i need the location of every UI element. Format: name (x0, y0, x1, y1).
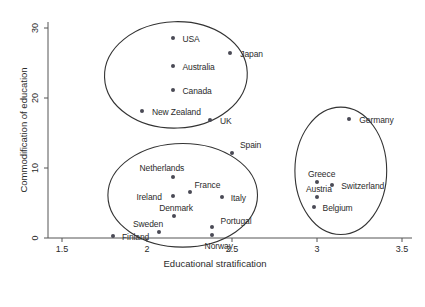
point-label: Finland (122, 232, 149, 242)
x-axis-title: Educational stratification (164, 258, 267, 269)
point-label: Switzerland (341, 181, 384, 191)
data-point[interactable] (315, 195, 319, 199)
y-tick-label: 10 (30, 163, 40, 173)
point-label: Australia (183, 62, 215, 72)
data-point[interactable] (140, 109, 144, 113)
point-label: France (195, 180, 221, 190)
data-point[interactable] (171, 88, 175, 92)
data-point[interactable] (157, 230, 161, 234)
point-label: Netherlands (140, 163, 185, 173)
data-point[interactable] (210, 225, 214, 229)
point-label: Denmark (159, 203, 193, 213)
point-label: Canada (183, 86, 212, 96)
point-label: Ireland (137, 192, 162, 202)
y-tick-label: 0 (30, 235, 40, 240)
point-label: Austria (306, 184, 332, 194)
point-label: Italy (231, 193, 246, 203)
y-tick-label: 30 (30, 23, 40, 33)
point-label: Norway (205, 241, 233, 251)
data-point[interactable] (208, 118, 212, 122)
x-tick-label: 3.5 (396, 244, 409, 254)
data-point[interactable] (171, 36, 175, 40)
y-tick-label: 20 (30, 93, 40, 103)
point-label: Portugal (221, 216, 252, 226)
data-point[interactable] (220, 195, 224, 199)
point-label: USA (183, 34, 200, 44)
data-point[interactable] (230, 151, 234, 155)
data-point[interactable] (172, 214, 176, 218)
point-label: Belgium (323, 203, 353, 213)
point-label: Sweden (133, 219, 163, 229)
point-label: UK (220, 116, 232, 126)
data-point[interactable] (210, 233, 214, 237)
point-label: New Zealand (152, 107, 201, 117)
data-point[interactable] (312, 205, 316, 209)
data-point[interactable] (171, 175, 175, 179)
data-point[interactable] (228, 51, 232, 55)
data-point[interactable] (171, 64, 175, 68)
y-axis-title: Commodification of education (18, 67, 29, 192)
x-tick-label: 2 (144, 244, 149, 254)
point-label: Germany (359, 115, 393, 125)
point-label: Japan (240, 49, 263, 59)
data-point[interactable] (188, 190, 192, 194)
chart-screenshot: 01020301.522.533.5USAJapanAustraliaCanad… (0, 0, 425, 307)
data-point[interactable] (171, 194, 175, 198)
data-point[interactable] (111, 234, 115, 238)
point-label: Greece (308, 169, 335, 179)
x-tick-label: 3 (314, 244, 319, 254)
point-label: Spain (240, 140, 261, 150)
x-tick-label: 1.5 (56, 244, 69, 254)
